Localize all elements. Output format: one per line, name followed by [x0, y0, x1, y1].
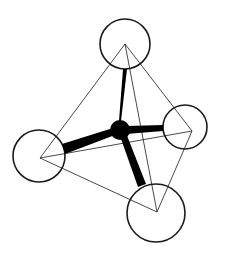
diagram-canvas — [0, 0, 226, 254]
central-atom — [110, 120, 130, 140]
bond-right — [126, 125, 163, 134]
bond-top — [119, 69, 127, 121]
edge-top-right — [125, 44, 192, 131]
edge-right-bottom — [157, 131, 192, 212]
outer-atom-bottom — [127, 184, 185, 242]
bond-left — [62, 128, 115, 154]
central-atom-group — [110, 120, 130, 140]
outer-atom-left — [13, 130, 65, 182]
outer-atom-right — [163, 105, 207, 149]
tetrahedral-molecule-diagram — [0, 0, 226, 254]
